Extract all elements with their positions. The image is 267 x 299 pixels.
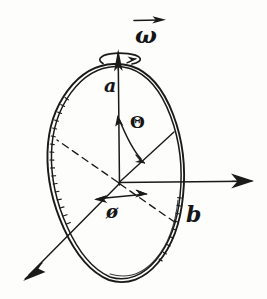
phi-label: ø (106, 203, 118, 221)
phi-arrow (94, 190, 148, 204)
dashed-lower-right (120, 184, 176, 223)
rotating-ring-diagram (0, 0, 267, 299)
figure-canvas: ω a b Θ ø (0, 0, 267, 299)
dashed-upper-left (57, 140, 118, 182)
radius-line (119, 132, 175, 183)
horizontal-axis-arrow (119, 174, 255, 189)
axis-a-label: a (104, 76, 116, 95)
omega-label: ω (135, 23, 157, 46)
ring-ellipse (47, 64, 184, 282)
axis-b-label: b (186, 203, 201, 225)
theta-label: Θ (130, 114, 145, 131)
